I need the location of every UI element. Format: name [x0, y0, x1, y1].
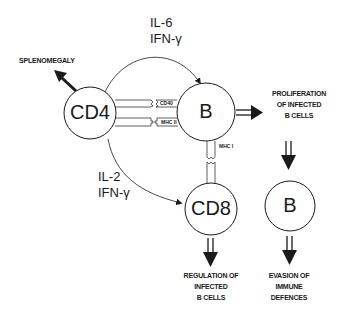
evasion-arrow-icon — [282, 236, 297, 265]
regulation-line-2: INFECTED — [170, 281, 252, 292]
cd4-to-b-cytokine-arrow — [105, 57, 200, 92]
proliferation-line-2: OF INFECTED — [259, 99, 339, 110]
evading-b-cell-label: B — [264, 194, 316, 217]
il6-ifng-label: IL-6 IFN-γ — [150, 15, 182, 47]
ifng-text: IFN-γ — [150, 31, 182, 47]
il2-text: IL-2 — [98, 169, 130, 185]
evasion-label: EVASION OF IMMUNE DEFENCES — [258, 270, 320, 303]
il6-text: IL-6 — [150, 15, 182, 31]
to-evading-b-arrow-icon — [281, 141, 296, 170]
regulation-label: REGULATION OF INFECTED B CELLS — [170, 270, 252, 303]
b-cell-label: B — [180, 100, 232, 123]
mhc1-connector — [207, 141, 215, 183]
il2-ifng-label: IL-2 IFN-γ — [98, 169, 130, 201]
ifng-text: IFN-γ — [98, 185, 130, 201]
splenomegaly-label: SPLENOMEGALY — [19, 55, 75, 66]
proliferation-line-1: PROLIFERATION — [259, 88, 339, 99]
regulation-line-3: B CELLS — [170, 292, 252, 303]
proliferation-label: PROLIFERATION OF INFECTED B CELLS — [259, 88, 339, 121]
cd8-cell-label: CD8 — [185, 197, 237, 220]
proliferation-line-3: B CELLS — [259, 110, 339, 121]
evasion-line-3: DEFENCES — [258, 292, 320, 303]
evasion-line-2: IMMUNE — [258, 281, 320, 292]
cd4-cell-label: CD4 — [64, 101, 116, 124]
mhc1-label: MHC I — [219, 143, 233, 149]
evasion-line-1: EVASION OF — [258, 270, 320, 281]
splenomegaly-arrow-icon — [54, 70, 76, 91]
diagram-canvas — [0, 0, 342, 316]
cd40-label: CD40 — [160, 100, 173, 106]
mhc2-label: MHC II — [161, 119, 177, 125]
regulation-line-1: REGULATION OF — [170, 270, 252, 281]
regulation-arrow-icon — [203, 238, 218, 267]
